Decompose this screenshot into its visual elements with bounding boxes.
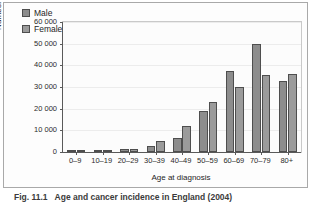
y-axis-tick-label: 20 000 bbox=[5, 105, 57, 113]
x-axis-tick-label: 10–19 bbox=[88, 156, 114, 165]
y-axis-tick-mark bbox=[60, 130, 63, 131]
gridline bbox=[63, 65, 301, 66]
x-axis-tick-mark bbox=[156, 152, 157, 155]
x-axis-tick-mark bbox=[208, 152, 209, 155]
x-axis-tick-mark bbox=[103, 152, 104, 155]
bar-female bbox=[209, 102, 218, 152]
bar-male bbox=[279, 81, 288, 153]
figure-caption-number: Fig. 11.1 bbox=[14, 192, 48, 202]
x-axis-tick-mark bbox=[129, 152, 130, 155]
bar-male bbox=[120, 149, 129, 152]
figure-caption-text: Age and cancer incidence in England (200… bbox=[55, 192, 233, 202]
bar-female bbox=[235, 87, 244, 152]
x-axis-tick-label: 20–29 bbox=[115, 156, 141, 165]
x-axis-tick-label: 80+ bbox=[274, 156, 300, 165]
legend-label-male: Male bbox=[34, 8, 52, 18]
figure-caption: Fig. 11.1Age and cancer incidence in Eng… bbox=[14, 192, 232, 202]
bar-female bbox=[182, 126, 191, 152]
x-axis-tick-label: 30–39 bbox=[141, 156, 167, 165]
bar-female bbox=[103, 150, 112, 152]
y-axis-tick-label: 10 000 bbox=[5, 126, 57, 134]
y-axis-tick-mark bbox=[60, 152, 63, 153]
y-axis-tick-label: 50 000 bbox=[5, 40, 57, 48]
x-axis-tick-mark bbox=[235, 152, 236, 155]
bar-female bbox=[77, 150, 86, 152]
bar-male bbox=[173, 138, 182, 152]
y-axis-tick-label: 40 000 bbox=[5, 61, 57, 69]
bar-male bbox=[252, 44, 261, 152]
x-axis-tick-label: 40–49 bbox=[168, 156, 194, 165]
y-axis-tick-label: 30 000 bbox=[5, 83, 57, 91]
y-axis-tick-mark bbox=[60, 65, 63, 66]
bar-male bbox=[67, 150, 76, 152]
bar-female bbox=[288, 74, 297, 152]
x-axis-title: Age at diagnosis bbox=[62, 173, 300, 182]
x-axis-tick-label: 0–9 bbox=[62, 156, 88, 165]
y-axis-title: Number of new cases bbox=[0, 0, 3, 30]
bar-female bbox=[262, 75, 271, 152]
bar-male bbox=[199, 111, 208, 152]
bar-male bbox=[147, 146, 156, 152]
y-axis-tick-mark bbox=[60, 87, 63, 88]
y-axis-tick-mark bbox=[60, 44, 63, 45]
x-axis-tick-label: 50–59 bbox=[194, 156, 220, 165]
gridline bbox=[63, 44, 301, 45]
gridline bbox=[63, 22, 301, 23]
y-axis-tick-label: 0 bbox=[5, 148, 57, 156]
bar-male bbox=[94, 150, 103, 152]
x-axis-tick-mark bbox=[76, 152, 77, 155]
bar-female bbox=[130, 149, 139, 152]
bar-male bbox=[226, 71, 235, 152]
y-axis-tick-mark bbox=[60, 109, 63, 110]
bar-female bbox=[156, 141, 165, 152]
y-axis-tick-label: 60 000 bbox=[5, 18, 57, 26]
x-axis-tick-label: 70–79 bbox=[247, 156, 273, 165]
x-axis-tick-mark bbox=[288, 152, 289, 155]
plot-area bbox=[62, 22, 301, 153]
figure-container: Number of new cases Male Female Age at d… bbox=[0, 0, 311, 203]
legend-swatch-male-icon bbox=[22, 9, 30, 17]
x-axis-tick-mark bbox=[261, 152, 262, 155]
x-axis-tick-label: 60–69 bbox=[221, 156, 247, 165]
x-axis-tick-mark bbox=[182, 152, 183, 155]
